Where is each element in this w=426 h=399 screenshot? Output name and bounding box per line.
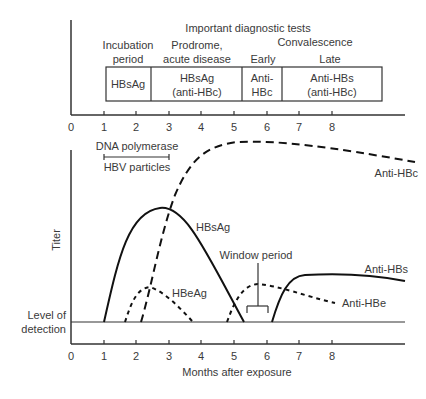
box-hbsag: HBsAg bbox=[111, 78, 145, 90]
svg-text:2: 2 bbox=[133, 350, 139, 362]
phase-prodrome-line1: Prodrome, bbox=[171, 39, 222, 51]
window-period-bracket bbox=[247, 263, 268, 313]
box-prodrome-line1: HBsAg bbox=[180, 72, 214, 84]
hbeag-label: HBeAg bbox=[172, 287, 207, 299]
hbsag-label: HBsAg bbox=[196, 221, 230, 233]
anti-hbe-curve bbox=[227, 284, 335, 322]
anti-hbc-label: Anti-HBc bbox=[375, 167, 419, 179]
anti-hbe-label: Anti-HBe bbox=[342, 297, 386, 309]
bottom-panel: Titer Level of detection 0 1 2 3 4 5 6 7… bbox=[21, 140, 418, 378]
detection-label-line2: detection bbox=[21, 323, 66, 335]
box-early-line1: Anti- bbox=[251, 72, 274, 84]
hbv-particles-label: HBV particles bbox=[104, 161, 171, 173]
y-axis-label: Titer bbox=[50, 229, 62, 251]
box-late-line2: (anti-HBc) bbox=[307, 86, 357, 98]
svg-text:3: 3 bbox=[166, 350, 172, 362]
svg-text:0: 0 bbox=[68, 121, 74, 133]
svg-text:3: 3 bbox=[166, 121, 172, 133]
svg-text:2: 2 bbox=[133, 121, 139, 133]
dna-range-bar bbox=[104, 154, 169, 160]
box-prodrome-line2: (anti-HBc) bbox=[172, 86, 222, 98]
svg-text:1: 1 bbox=[101, 121, 107, 133]
svg-text:5: 5 bbox=[231, 350, 237, 362]
phase-convalescence: Convalescence bbox=[277, 36, 352, 48]
svg-text:6: 6 bbox=[264, 350, 270, 362]
svg-text:6: 6 bbox=[264, 121, 270, 133]
detection-label-line1: Level of bbox=[27, 309, 66, 321]
phase-prodrome-line2: acute disease bbox=[163, 53, 231, 65]
phase-incubation-line2: period bbox=[113, 53, 144, 65]
top-x-tick-labels: 0 1 2 3 4 5 6 7 8 bbox=[68, 121, 335, 133]
phase-early: Early bbox=[250, 53, 276, 65]
svg-text:4: 4 bbox=[198, 350, 204, 362]
svg-text:4: 4 bbox=[198, 121, 204, 133]
svg-text:8: 8 bbox=[329, 121, 335, 133]
phase-incubation-line1: Incubation bbox=[103, 39, 154, 51]
dna-polymerase-label: DNA polymerase bbox=[96, 140, 179, 152]
svg-text:7: 7 bbox=[296, 350, 302, 362]
bottom-x-tick-labels: 0 1 2 3 4 5 6 7 8 bbox=[68, 350, 335, 362]
anti-hbs-label: Anti-HBs bbox=[365, 263, 409, 275]
svg-text:1: 1 bbox=[101, 350, 107, 362]
top-panel: Important diagnostic tests Incubation pe… bbox=[68, 20, 405, 133]
box-early-line2: HBc bbox=[252, 86, 273, 98]
box-late-line1: Anti-HBs bbox=[310, 72, 354, 84]
phase-late: Late bbox=[319, 53, 340, 65]
svg-text:7: 7 bbox=[296, 121, 302, 133]
hbv-serology-diagram: Important diagnostic tests Incubation pe… bbox=[0, 0, 426, 399]
window-period-label: Window period bbox=[220, 249, 293, 261]
x-axis-label: Months after exposure bbox=[182, 366, 291, 378]
svg-text:5: 5 bbox=[231, 121, 237, 133]
svg-text:0: 0 bbox=[68, 350, 74, 362]
svg-text:8: 8 bbox=[329, 350, 335, 362]
top-panel-title: Important diagnostic tests bbox=[185, 22, 311, 34]
